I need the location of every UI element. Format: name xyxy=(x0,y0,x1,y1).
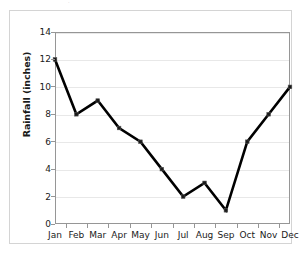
data-point-oct xyxy=(245,140,249,144)
y-tickmark-8 xyxy=(51,114,55,115)
y-tick-label-2: 2 xyxy=(21,192,51,202)
y-tick-label-12: 12 xyxy=(21,54,51,64)
x-tick-label-dec: Dec xyxy=(270,230,301,240)
data-point-feb xyxy=(75,112,79,116)
y-tick-label-6: 6 xyxy=(21,137,51,147)
x-tickmark-0 xyxy=(66,224,67,228)
data-point-sep xyxy=(224,208,228,212)
rainfall-line-series xyxy=(55,32,290,224)
x-tickmark-6 xyxy=(194,224,195,228)
x-tickmark-10 xyxy=(279,224,280,228)
series-line-rainfall xyxy=(55,59,290,210)
data-point-may xyxy=(139,140,143,144)
data-point-jun xyxy=(160,167,164,171)
y-tickmark-12 xyxy=(51,59,55,60)
x-tickmark-9 xyxy=(258,224,259,228)
data-point-mar xyxy=(96,99,100,103)
y-tick-label-4: 4 xyxy=(21,164,51,174)
y-tickmark-0 xyxy=(51,224,55,225)
data-point-jul xyxy=(181,195,185,199)
y-tick-label-8: 8 xyxy=(21,109,51,119)
y-tick-label-0: 0 xyxy=(21,219,51,229)
y-axis-tick-labels: 02468101214 xyxy=(18,32,51,224)
series-markers xyxy=(53,58,292,212)
y-tickmark-4 xyxy=(51,169,55,170)
data-point-aug xyxy=(203,181,207,185)
chart-title-remnant: · xyxy=(68,0,94,5)
y-tick-label-10: 10 xyxy=(21,82,51,92)
y-tickmark-2 xyxy=(51,196,55,197)
data-point-nov xyxy=(267,112,271,116)
data-point-dec xyxy=(288,85,292,89)
y-tickmark-14 xyxy=(51,32,55,33)
y-tick-label-14: 14 xyxy=(21,27,51,37)
y-tickmark-10 xyxy=(51,86,55,87)
x-tickmark-7 xyxy=(215,224,216,228)
x-tickmark-3 xyxy=(130,224,131,228)
x-tickmark-4 xyxy=(151,224,152,228)
chart-frame: Rainfall (inches) 02468101214 JanFebMarA… xyxy=(9,10,292,244)
x-tickmark-8 xyxy=(237,224,238,228)
x-tickmark-2 xyxy=(108,224,109,228)
chart-screenshot: · Rainfall (inches) 02468101214 JanFebMa… xyxy=(0,0,301,253)
data-point-apr xyxy=(117,126,121,130)
x-tickmark-1 xyxy=(87,224,88,228)
y-tickmark-6 xyxy=(51,141,55,142)
x-tickmark-5 xyxy=(173,224,174,228)
